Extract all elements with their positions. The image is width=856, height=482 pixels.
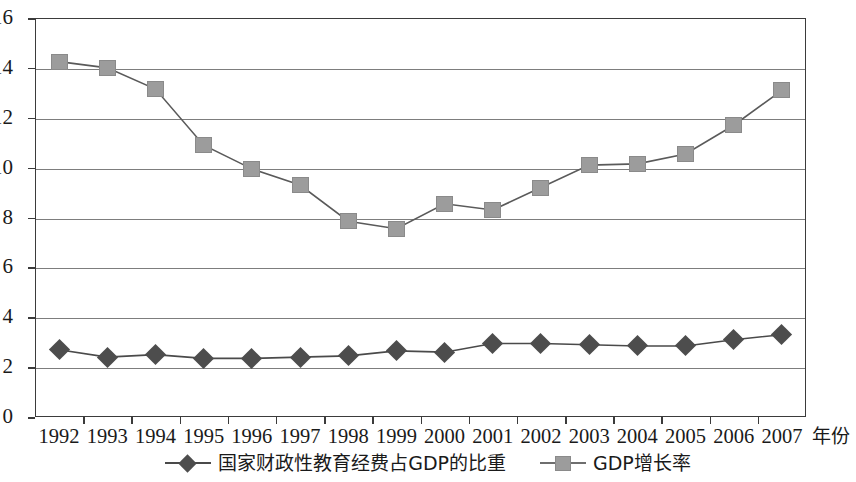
legend-entry-education-share[interactable]: 国家财政性教育经费占GDP的比重 [165,452,506,474]
chart-legend: 国家财政性教育经费占GDP的比重 GDP增长率 [0,452,856,474]
square-marker-icon [540,455,586,471]
legend-label-gdp-growth: GDP增长率 [593,452,691,474]
chart-container: 0246810121416 19921993199419951996199719… [0,0,856,482]
diamond-marker-icon [165,455,211,471]
series-line-education-share [59,335,782,359]
legend-entry-gdp-growth[interactable]: GDP增长率 [540,452,691,474]
series-lines [0,0,856,482]
legend-label-education-share: 国家财政性教育经费占GDP的比重 [218,452,506,474]
series-line-gdp-growth [59,62,782,229]
